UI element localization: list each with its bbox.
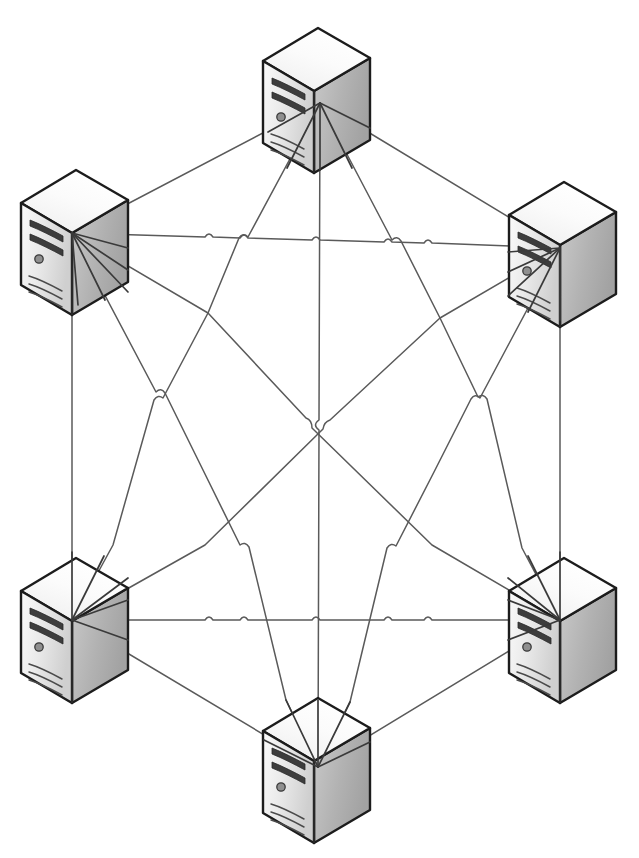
edge-top-left-to-bottom[interactable] bbox=[72, 233, 318, 767]
server-tower-icon bbox=[509, 558, 616, 703]
network-diagram bbox=[0, 0, 639, 858]
network-topology-canvas bbox=[0, 0, 639, 858]
node-srv-bottom-left[interactable] bbox=[21, 552, 128, 703]
server-tower-icon bbox=[509, 182, 616, 327]
edge-top-left-to-top-right[interactable] bbox=[72, 233, 560, 248]
server-tower-icon bbox=[263, 28, 370, 173]
server-tower-icon bbox=[21, 558, 128, 703]
server-tower-icon bbox=[21, 170, 128, 315]
node-srv-top[interactable] bbox=[263, 28, 370, 173]
edge-top-to-bottom-left[interactable] bbox=[72, 103, 320, 620]
edge-bottom-left-to-bottom-right[interactable] bbox=[72, 617, 560, 620]
node-srv-top-left[interactable] bbox=[21, 170, 128, 315]
edge-top-to-bottom-right[interactable] bbox=[320, 103, 560, 620]
connection-edges-layer bbox=[72, 103, 560, 767]
node-srv-bottom[interactable] bbox=[263, 698, 370, 843]
server-tower-icon bbox=[263, 698, 370, 843]
edge-top-right-to-bottom-left[interactable] bbox=[72, 248, 560, 620]
edge-top-right-to-bottom[interactable] bbox=[318, 248, 560, 767]
node-srv-bottom-right[interactable] bbox=[508, 552, 616, 703]
node-srv-top-right[interactable] bbox=[508, 182, 616, 327]
